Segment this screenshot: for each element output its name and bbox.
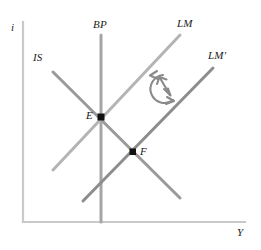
curve-label-bp: BP <box>93 19 107 30</box>
isl-lm-bp-diagram: i Y IS BP LM LM′ E F <box>0 0 261 250</box>
curve-is <box>53 72 180 198</box>
arc-arrowhead-bottom <box>166 97 174 104</box>
curve-label-lm: LM <box>177 18 193 29</box>
x-axis-label: Y <box>237 227 243 238</box>
curves-group <box>53 35 213 222</box>
diagram-canvas <box>0 0 261 250</box>
point-F-marker <box>130 149 137 156</box>
arc-arrowhead-top <box>150 71 158 79</box>
point-label-f: F <box>140 146 147 157</box>
point-E-marker <box>98 114 105 121</box>
y-axis-label: i <box>11 22 14 33</box>
curve-label-is: IS <box>33 52 43 63</box>
point-label-e: E <box>86 110 93 121</box>
curve-label-lm-prime: LM′ <box>208 50 226 61</box>
adjustment-arrow-group <box>150 71 174 104</box>
